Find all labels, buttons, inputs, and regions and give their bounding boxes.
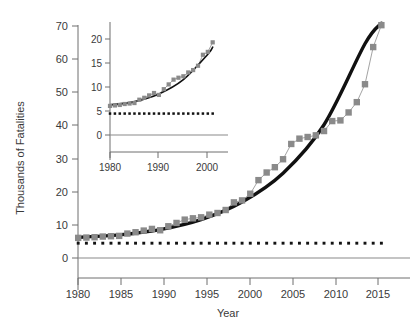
main-x-tick-1980: 1980 (66, 288, 90, 300)
reference-line-dot (143, 112, 146, 115)
main-x-tick-2015: 2015 (366, 288, 390, 300)
reference-line-dot (347, 242, 350, 245)
main-y-ticks: 0 10 20 30 40 50 60 70 (56, 20, 78, 264)
data-point-marker (296, 135, 302, 141)
data-point-marker (157, 93, 161, 97)
reference-line-dot (150, 242, 153, 245)
reference-line-dot (208, 242, 211, 245)
reference-line-dot (298, 242, 301, 245)
reference-line-dot (126, 242, 129, 245)
data-point-marker (132, 101, 136, 105)
data-point-marker (370, 44, 376, 50)
data-point-marker (214, 210, 220, 216)
reference-line-dot (211, 112, 214, 115)
reference-line-dot (119, 112, 122, 115)
inset-x-tick-1980: 1980 (99, 162, 122, 173)
main-x-tick-2000: 2000 (238, 288, 262, 300)
data-point-marker (263, 169, 269, 175)
inset-fit-curve (110, 47, 213, 105)
data-point-marker (167, 82, 171, 86)
reference-line-dot (177, 112, 180, 115)
data-point-marker (173, 220, 179, 226)
data-point-marker (91, 234, 97, 240)
reference-line-dot (364, 242, 367, 245)
reference-line-dot (273, 242, 276, 245)
reference-line-dot (138, 112, 141, 115)
data-point-marker (288, 141, 294, 147)
reference-line-dot (142, 242, 145, 245)
reference-line-dot (163, 112, 166, 115)
reference-line-dot (175, 242, 178, 245)
inset-series-connector (110, 42, 213, 106)
inset-y-tick-10: 10 (91, 82, 103, 93)
data-point-marker (206, 211, 212, 217)
fatalities-chart-figure: 0 10 20 30 40 50 60 70 1980 1985 1990 (0, 0, 414, 330)
main-reference-dotted-line (77, 242, 383, 245)
data-point-marker (83, 234, 89, 240)
reference-line-dot (128, 112, 131, 115)
data-point-marker (255, 177, 261, 183)
main-x-tick-2005: 2005 (281, 288, 305, 300)
reference-line-dot (85, 242, 88, 245)
reference-line-dot (158, 112, 161, 115)
data-point-marker (132, 229, 138, 235)
data-point-marker (75, 235, 81, 241)
data-point-marker (123, 102, 127, 106)
data-point-marker (141, 227, 147, 233)
reference-line-dot (182, 112, 185, 115)
reference-line-dot (109, 112, 112, 115)
data-point-marker (211, 40, 215, 44)
reference-line-dot (290, 242, 293, 245)
reference-line-dot (380, 242, 383, 245)
reference-line-dot (187, 112, 190, 115)
inset-series-markers (108, 40, 215, 108)
data-point-marker (100, 233, 106, 239)
reference-line-dot (118, 242, 121, 245)
data-point-marker (186, 70, 190, 74)
data-point-marker (190, 215, 196, 221)
data-point-marker (329, 118, 335, 124)
data-point-marker (147, 93, 151, 97)
data-point-marker (321, 128, 327, 134)
reference-line-dot (134, 242, 137, 245)
data-point-marker (124, 230, 130, 236)
data-point-marker (118, 103, 122, 107)
reference-line-dot (172, 112, 175, 115)
main-y-tick-0: 0 (62, 252, 68, 264)
data-point-marker (162, 87, 166, 91)
reference-line-dot (232, 242, 235, 245)
data-point-marker (116, 233, 122, 239)
reference-line-dot (191, 242, 194, 245)
reference-line-dot (200, 242, 203, 245)
data-point-marker (108, 104, 112, 108)
inset-y-tick-15: 15 (91, 58, 103, 69)
data-point-marker (196, 64, 200, 68)
main-y-tick-60: 60 (56, 53, 68, 65)
reference-line-dot (77, 242, 80, 245)
data-point-marker (149, 226, 155, 232)
data-point-marker (165, 223, 171, 229)
data-point-marker (378, 22, 384, 28)
reference-line-dot (202, 112, 205, 115)
inset-x-tick-1990: 1990 (147, 162, 170, 173)
reference-line-dot (153, 112, 156, 115)
reference-line-dot (183, 242, 186, 245)
reference-line-dot (101, 242, 104, 245)
data-point-marker (201, 53, 205, 57)
reference-line-dot (323, 242, 326, 245)
data-point-marker (239, 197, 245, 203)
reference-line-dot (331, 242, 334, 245)
data-point-marker (157, 227, 163, 233)
data-point-marker (181, 74, 185, 78)
data-point-marker (142, 96, 146, 100)
reference-line-dot (148, 112, 151, 115)
reference-line-dot (372, 242, 375, 245)
reference-line-dot (282, 242, 285, 245)
main-y-tick-20: 20 (56, 186, 68, 198)
data-point-marker (171, 78, 175, 82)
data-point-marker (313, 132, 319, 138)
data-point-marker (108, 233, 114, 239)
data-point-marker (247, 191, 253, 197)
data-point-marker (198, 214, 204, 220)
reference-line-dot (306, 242, 309, 245)
